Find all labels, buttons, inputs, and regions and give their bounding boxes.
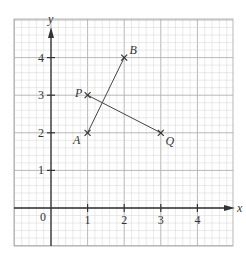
point-label: P (74, 86, 83, 100)
x-axis-label: x (236, 201, 243, 215)
x-tick-label: 3 (158, 213, 164, 227)
point-label: A (72, 133, 81, 147)
y-axis-label: y (47, 12, 54, 26)
x-tick-label: 4 (194, 213, 200, 227)
grid (14, 19, 233, 246)
coordinate-diagram: 12341234 ABPQ x y 0 (0, 0, 246, 257)
y-tick-label: 2 (38, 126, 44, 140)
x-tick-label: 1 (85, 213, 91, 227)
y-tick-label: 1 (38, 163, 44, 177)
origin-label: 0 (40, 210, 46, 224)
point-p: P (74, 86, 91, 100)
y-tick-label: 4 (38, 51, 44, 65)
point-label: Q (165, 134, 174, 148)
x-tick-label: 2 (121, 213, 127, 227)
y-axis-arrow-icon (48, 27, 54, 38)
point-label: B (130, 43, 138, 57)
y-tick-label: 3 (38, 88, 44, 102)
